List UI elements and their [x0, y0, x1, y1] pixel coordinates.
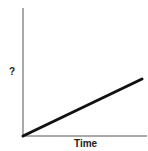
y-axis-label: ?	[9, 66, 15, 77]
line-chart	[0, 0, 148, 151]
x-axis-label: Time	[74, 138, 97, 149]
data-line	[23, 79, 142, 136]
